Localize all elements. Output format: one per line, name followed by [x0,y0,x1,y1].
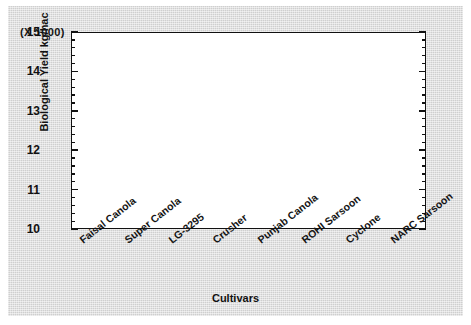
y-tick-label: 13 [27,104,40,118]
y-tick-major [71,71,78,73]
y-tick-minor [422,126,426,127]
y-tick-minor [422,157,426,158]
y-tick-minor [71,87,75,88]
y-tick-minor [71,47,75,48]
y-tick-minor [71,102,75,103]
y-tick-minor [71,213,75,214]
y-tick-minor [422,134,426,135]
y-tick-minor [422,94,426,95]
y-tick-minor [422,197,426,198]
y-tick-major [419,71,426,73]
y-tick-minor [422,39,426,40]
y-tick-minor [422,142,426,143]
y-tick-minor [71,118,75,119]
x-axis-title: Cultivars [8,292,463,304]
y-tick-label: 12 [27,143,40,157]
y-tick-minor [422,47,426,48]
y-tick-major [419,149,426,151]
y-tick-minor [71,79,75,80]
y-tick-major [419,189,426,191]
y-tick-minor [71,197,75,198]
y-tick-minor [71,55,75,56]
y-tick-major [71,228,78,230]
y-tick-minor [422,63,426,64]
y-tick-major [419,228,426,230]
y-tick-minor [422,181,426,182]
figure-panel: (X 1000) Biological Yield kg/hac 1011121… [8,6,463,316]
y-tick-minor [71,94,75,95]
y-tick-minor [422,79,426,80]
y-tick-minor [422,55,426,56]
y-tick-major [71,31,78,33]
y-tick-minor [422,173,426,174]
y-tick-minor [71,39,75,40]
y-tick-minor [422,87,426,88]
y-tick-minor [71,157,75,158]
y-tick-major [71,149,78,151]
y-tick-label: 15 [27,25,40,39]
y-tick-minor [422,118,426,119]
y-tick-major [419,110,426,112]
y-tick-major [71,189,78,191]
y-tick-minor [71,126,75,127]
y-tick-minor [422,102,426,103]
y-tick-minor [71,165,75,166]
y-tick-major [71,110,78,112]
y-tick-major [419,31,426,33]
y-tick-minor [71,181,75,182]
y-tick-minor [71,221,75,222]
y-tick-label: 10 [27,222,40,236]
y-tick-minor [71,134,75,135]
y-tick-minor [71,63,75,64]
y-tick-minor [71,205,75,206]
y-tick-minor [71,142,75,143]
y-tick-minor [422,165,426,166]
y-tick-label: 11 [27,183,40,197]
y-tick-label: 14 [27,64,40,78]
y-tick-minor [71,173,75,174]
